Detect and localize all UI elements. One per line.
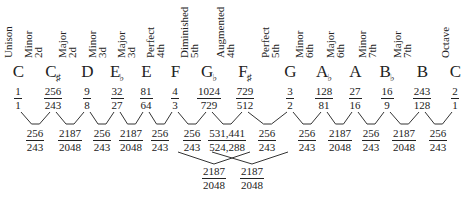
connector-lines [0,0,472,199]
